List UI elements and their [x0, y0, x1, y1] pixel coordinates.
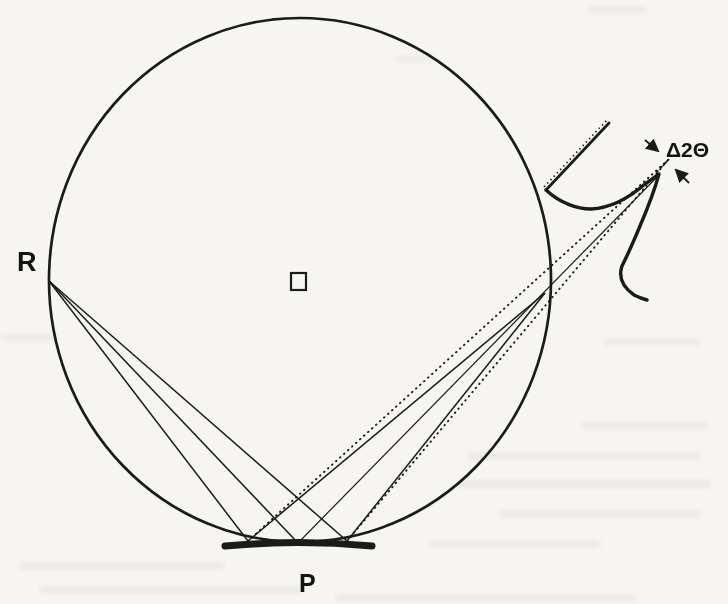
- receiving-point-label: R: [17, 247, 37, 277]
- incident-rays: [49, 281, 347, 543]
- page-bleed-smudges: [0, 6, 710, 602]
- circle-center-marker: [291, 273, 306, 290]
- specimen-bar: [225, 543, 372, 547]
- scanned-figure-page: R P Δ2Θ: [0, 0, 728, 604]
- focusing-circle-diagram: R P Δ2Θ: [0, 0, 728, 604]
- profile-baseline-line: [546, 123, 609, 190]
- incident-ray-1: [49, 281, 248, 541]
- specimen-label: P: [299, 569, 316, 597]
- incident-ray-3: [49, 281, 347, 541]
- profile-baseline: [544, 120, 609, 190]
- incident-ray-2: [49, 281, 298, 543]
- diffracted-ray-1: [248, 293, 545, 541]
- focusing-circle: [49, 18, 551, 542]
- delta-arrow-upper: [645, 140, 658, 151]
- profile-baseline-serration: [544, 120, 607, 187]
- delta-arrow-lower: [676, 170, 689, 183]
- peak-shift-label: Δ2Θ: [666, 138, 709, 161]
